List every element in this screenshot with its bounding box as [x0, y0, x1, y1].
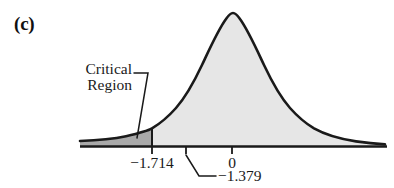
distribution-plot — [0, 0, 394, 188]
critical-region-leader-line — [134, 73, 148, 138]
critical-region-label-line1: Critical — [34, 61, 132, 77]
critical-region-figure: (c) Critical Region −1.714 0 −1.379 — [0, 0, 394, 188]
tick-label-critical-value: −1.714 — [112, 155, 192, 171]
critical-region-label-line2: Region — [34, 77, 132, 93]
tick-label-test-statistic: −1.379 — [218, 168, 298, 184]
critical-region-label: Critical Region — [34, 61, 132, 94]
